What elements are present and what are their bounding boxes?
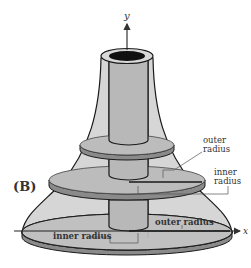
panel-label: (B): [13, 179, 36, 194]
y-axis-label: y: [123, 10, 130, 21]
solid-of-revolution-diagram: y x (B) outer radius inner radius outer …: [0, 0, 251, 268]
disk2-outer-radius-label-2: radius: [203, 144, 230, 154]
base-inner-radius-label: inner radius: [53, 231, 112, 241]
base-outer-radius-label: outer radius: [155, 217, 214, 227]
hole-icon: [109, 51, 145, 61]
x-axis-label: x: [243, 226, 248, 236]
disk2-inner-radius-label-2: radius: [214, 176, 241, 186]
